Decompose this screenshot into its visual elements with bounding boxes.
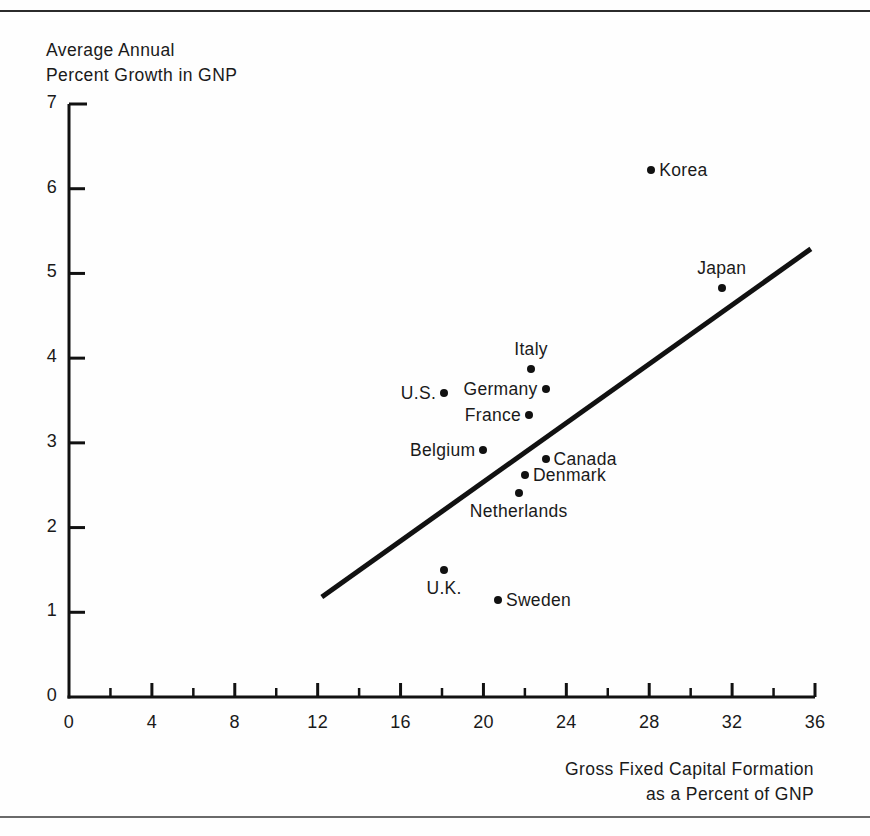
- data-point-france[interactable]: [525, 411, 533, 419]
- figure-container: Average Annual Percent Growth in GNP Gro…: [0, 0, 870, 836]
- x-tick-label-12: 12: [298, 712, 338, 733]
- x-tick-label-0: 0: [49, 712, 89, 733]
- data-point-denmark[interactable]: [521, 471, 529, 479]
- y-tick-label-2: 2: [27, 516, 57, 537]
- data-point-sweden[interactable]: [494, 596, 502, 604]
- data-point-us[interactable]: [440, 389, 448, 397]
- x-tick-label-8: 8: [215, 712, 255, 733]
- scatter-plot: 0123456704812162024283236 KoreaJapanItal…: [0, 0, 870, 836]
- x-tick-label-32: 32: [712, 712, 752, 733]
- y-tick-label-0: 0: [27, 685, 57, 706]
- trend-line-segment: [322, 249, 811, 597]
- point-label-belgium: Belgium: [410, 439, 475, 460]
- x-tick-label-36: 36: [795, 712, 835, 733]
- x-tick-label-24: 24: [546, 712, 586, 733]
- y-tick-label-7: 7: [27, 92, 57, 113]
- point-label-us: U.S.: [401, 382, 436, 403]
- point-label-germany: Germany: [464, 379, 538, 400]
- point-label-netherlands: Netherlands: [470, 501, 568, 522]
- point-label-uk: U.K.: [426, 578, 461, 599]
- x-tick-label-20: 20: [463, 712, 503, 733]
- y-tick-label-3: 3: [27, 431, 57, 452]
- y-tick-label-5: 5: [27, 261, 57, 282]
- data-point-japan[interactable]: [718, 284, 726, 292]
- data-point-uk[interactable]: [440, 566, 448, 574]
- y-tick-label-6: 6: [27, 177, 57, 198]
- point-label-denmark: Denmark: [533, 465, 606, 486]
- point-label-japan: Japan: [697, 258, 746, 279]
- y-tick-label-1: 1: [27, 600, 57, 621]
- x-tick-label-4: 4: [132, 712, 172, 733]
- x-tick-label-28: 28: [629, 712, 669, 733]
- trend-line: [322, 249, 811, 597]
- point-label-italy: Italy: [514, 339, 548, 360]
- data-point-netherlands[interactable]: [515, 489, 523, 497]
- axes-group: [68, 104, 816, 699]
- point-label-korea: Korea: [659, 160, 707, 181]
- x-tick-label-16: 16: [381, 712, 421, 733]
- point-label-france: France: [465, 404, 521, 425]
- y-tick-label-4: 4: [27, 346, 57, 367]
- data-point-canada[interactable]: [542, 455, 550, 463]
- plot-svg: [0, 0, 870, 836]
- point-label-sweden: Sweden: [506, 589, 571, 610]
